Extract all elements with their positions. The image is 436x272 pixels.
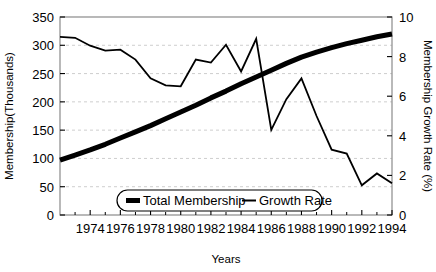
- y2-tick-label-6: 6: [399, 89, 406, 104]
- dual-axis-line-chart: 1974197619781980198219841986198819901992…: [0, 0, 436, 272]
- y-tick-label-0: 0: [47, 208, 54, 223]
- series-line-growth-rate: [60, 37, 392, 186]
- y2-tick-label-0: 0: [399, 208, 406, 223]
- y-tick-label-300: 300: [32, 38, 54, 53]
- y2-axis-ticks: [387, 17, 392, 215]
- chart-legend: Total Membership Growth Rate: [117, 190, 332, 211]
- y2-tick-label-2: 2: [399, 168, 406, 183]
- x-tick-label-1984: 1984: [227, 221, 256, 236]
- y2-tick-label-4: 4: [399, 129, 406, 144]
- y-tick-label-350: 350: [32, 10, 54, 25]
- x-axis-title: Years: [212, 253, 241, 265]
- x-tick-label-1990: 1990: [317, 221, 346, 236]
- y-tick-label-200: 200: [32, 95, 54, 110]
- x-tick-label-1994: 1994: [378, 221, 407, 236]
- y2-tick-label-8: 8: [399, 50, 406, 65]
- y-tick-label-250: 250: [32, 67, 54, 82]
- y-tick-label-50: 50: [40, 180, 54, 195]
- y-tick-label-100: 100: [32, 151, 54, 166]
- x-tick-label-1986: 1986: [257, 221, 286, 236]
- y-tick-label-150: 150: [32, 123, 54, 138]
- data-series-group: [60, 34, 392, 185]
- x-axis-tick-labels: 1974197619781980198219841986198819901992…: [76, 221, 407, 236]
- y2-tick-label-10: 10: [399, 10, 413, 25]
- legend-label-total-membership: Total Membership: [143, 193, 246, 208]
- y-axis-ticks: [60, 17, 65, 215]
- x-tick-label-1978: 1978: [136, 221, 165, 236]
- y-axis-tick-labels: 050100150200250300350: [32, 10, 54, 223]
- y2-axis-title: Membership Growth Rate (%): [422, 40, 434, 192]
- series-line-total-membership: [60, 34, 392, 160]
- x-tick-label-1992: 1992: [347, 221, 376, 236]
- legend-label-growth-rate: Growth Rate: [259, 193, 332, 208]
- x-tick-label-1974: 1974: [76, 221, 105, 236]
- x-tick-label-1976: 1976: [106, 221, 135, 236]
- x-tick-label-1982: 1982: [196, 221, 225, 236]
- y2-axis-tick-labels: 0246810: [399, 10, 413, 223]
- grid-lines: [60, 45, 392, 186]
- x-tick-label-1980: 1980: [166, 221, 195, 236]
- chart-figure: 1974197619781980198219841986198819901992…: [0, 0, 436, 272]
- y-axis-title: Membership(Thousands): [3, 52, 15, 180]
- x-tick-label-1988: 1988: [287, 221, 316, 236]
